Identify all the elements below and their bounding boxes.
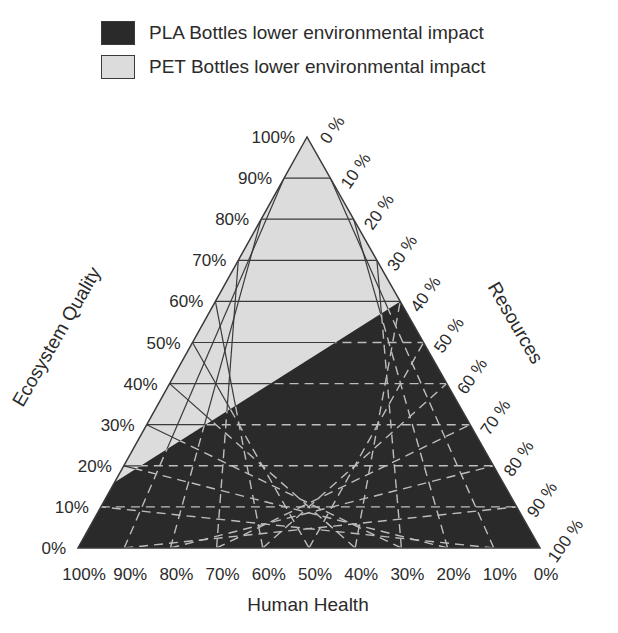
tick-label: 30%: [101, 416, 135, 435]
tick-label: 100%: [252, 128, 295, 147]
left-axis-title: Ecosystem Quality: [8, 263, 105, 410]
tick-label: 20 %: [360, 191, 398, 234]
tick-label: 10%: [483, 565, 517, 584]
tick-label: 50%: [298, 565, 332, 584]
bottom-axis-ticks: 100%90%80%70%60%50%40%30%20%10%0%: [62, 565, 558, 584]
tick-label: 90%: [113, 565, 147, 584]
tick-label: 10%: [55, 498, 89, 517]
ternary-chart: 0%10%20%30%40%50%60%70%80%90%100% 0 %10 …: [0, 0, 618, 633]
tick-label: 100%: [62, 565, 105, 584]
tick-label: 90%: [238, 169, 272, 188]
tick-label: 40%: [344, 565, 378, 584]
tick-label: 20%: [437, 565, 471, 584]
tick-label: 80%: [215, 210, 249, 229]
tick-label: 20%: [78, 457, 112, 476]
tick-label: 40 %: [407, 273, 445, 316]
bottom-axis-title: Human Health: [247, 594, 368, 615]
tick-label: 10 %: [337, 150, 375, 193]
tick-label: 0%: [534, 565, 559, 584]
tick-label: 70 %: [477, 396, 515, 439]
tick-label: 30%: [390, 565, 424, 584]
tick-label: 70%: [206, 565, 240, 584]
tick-label: 60 %: [453, 355, 491, 398]
right-axis-title: Resources: [484, 278, 548, 367]
tick-label: 0%: [41, 539, 66, 558]
tick-label: 80%: [159, 565, 193, 584]
tick-label: 80 %: [500, 437, 538, 480]
tick-label: 50%: [146, 334, 180, 353]
tick-label: 90 %: [523, 478, 561, 521]
tick-label: 100 %: [544, 516, 587, 566]
tick-label: 0 %: [316, 112, 348, 147]
tick-label: 50 %: [430, 314, 468, 357]
tick-label: 70%: [192, 251, 226, 270]
tick-label: 60%: [252, 565, 286, 584]
tick-label: 40%: [124, 375, 158, 394]
tick-label: 30 %: [383, 232, 421, 275]
tick-label: 60%: [169, 292, 203, 311]
